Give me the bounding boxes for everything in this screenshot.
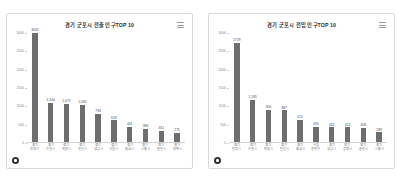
bar[interactable]: 430 (313, 127, 319, 143)
bar[interactable]: 408 (361, 128, 367, 143)
chart-title: 경기 군포시 전입 인구TOP 10 (209, 21, 394, 28)
bar-item[interactable]: 289 (371, 33, 387, 143)
bar-value-label: 1,104 (47, 98, 55, 102)
bar[interactable]: 1,035 (80, 105, 86, 143)
bar[interactable]: 424 (345, 127, 351, 143)
badge-inner-dot (14, 159, 16, 161)
bar-item[interactable]: 1,035 (74, 33, 90, 143)
y-axis: 050010001500200025003000 (209, 33, 229, 143)
x-axis-tick-label: 경기의왕시 (59, 144, 75, 152)
bar[interactable]: 1,104 (48, 103, 54, 143)
y-axis-tick-label: 3000 (218, 31, 226, 35)
x-axis-tick-label-line: 시흥시 (138, 148, 154, 152)
bar[interactable]: 441 (127, 127, 133, 143)
y-axis-tick-label: 1000 (16, 104, 24, 108)
bar-item[interactable]: 794 (90, 33, 106, 143)
bar-item[interactable]: 430 (308, 33, 324, 143)
y-axis-tick-label: 3000 (16, 31, 24, 35)
chart-panel: 경기 군포시 전출 인구TOP 100500100015002000250030… (6, 13, 193, 169)
bar[interactable]: 887 (282, 110, 288, 143)
bar-value-label: 386 (143, 124, 149, 128)
bar-item[interactable]: 275 (169, 33, 185, 143)
bar[interactable]: 386 (143, 129, 149, 143)
x-axis-tick-label-line: 수원시 (245, 148, 261, 152)
bar-item[interactable]: 441 (122, 33, 138, 143)
x-axis-tick-label: 경기의왕시 (261, 144, 277, 152)
y-axis: 050010001500200025003000 (7, 33, 27, 143)
x-axis-tick-label: 경기수원시 (245, 144, 261, 152)
x-axis-tick-label-line: 시흥시 (371, 148, 387, 152)
bar-item[interactable]: 424 (340, 33, 356, 143)
bar-value-label: 1,185 (249, 95, 257, 99)
bar[interactable]: 1,071 (64, 104, 70, 143)
bar[interactable]: 621 (297, 120, 303, 143)
bar-item[interactable]: 341 (153, 33, 169, 143)
bar-series: 30021,1041,0711,035794618441386341275 (27, 33, 185, 143)
x-axis-tick-label-line: 수원시 (43, 148, 59, 152)
x-axis-tick-label: 경기안산시 (74, 144, 90, 152)
y-axis-tick-label: 2500 (218, 49, 226, 53)
bar-value-label: 275 (174, 128, 180, 132)
x-axis-tick-label-line: 용인시 (153, 148, 169, 152)
x-axis-tick-label: 경기화성시 (292, 144, 308, 152)
bar-value-label: 424 (345, 123, 351, 127)
y-axis-tick-label: 2000 (218, 68, 226, 72)
bar-series: 27291,185900887621430424424408289 (229, 33, 387, 143)
bar-value-label: 3002 (31, 28, 38, 32)
x-axis-tick-label-line: 의왕시 (59, 148, 75, 152)
bar-value-label: 289 (376, 128, 382, 132)
bar[interactable]: 900 (266, 110, 272, 143)
bar[interactable]: 1,185 (250, 100, 256, 143)
x-axis-tick-label: 경기시흥시 (138, 144, 154, 152)
x-axis-tick-label-line: 안양시 (27, 148, 43, 152)
y-axis-tick-label: 0 (22, 141, 24, 145)
bar-item[interactable]: 2729 (229, 33, 245, 143)
x-axis-tick-label-line: 안양시 (229, 148, 245, 152)
plot-area: 05001000150020002500300027291,1859008876… (229, 33, 387, 143)
x-axis-tick-label: 경기안양시 (27, 144, 43, 152)
bar-item[interactable]: 3002 (27, 33, 43, 143)
x-axis-tick-label-line: 성남시 (90, 148, 106, 152)
bar-item[interactable]: 887 (276, 33, 292, 143)
x-axis-tick-label: 서울관악구 (308, 144, 324, 152)
bar-item[interactable]: 1,104 (43, 33, 59, 143)
y-axis-tick-label: 2000 (16, 68, 24, 72)
y-axis-tick-label: 500 (18, 123, 24, 127)
circle-dot-icon[interactable] (214, 157, 221, 164)
bar[interactable]: 618 (111, 120, 117, 143)
bar[interactable]: 3002 (32, 33, 38, 143)
x-axis-tick-label-line: 안산시 (74, 148, 90, 152)
x-axis-tick-label-line: 안산시 (276, 148, 292, 152)
bar-value-label: 424 (329, 123, 335, 127)
x-axis-labels: 경기안양시경기수원시경기의왕시경기안산시경기화성시서울관악구경기성남시경기광명시… (229, 144, 387, 162)
x-axis-tick-label-line: 의왕시 (261, 148, 277, 152)
x-axis-tick-label: 경기평택시 (169, 144, 185, 152)
bar[interactable]: 2729 (234, 43, 240, 143)
x-axis-tick-label: 경기용인시 (355, 144, 371, 152)
bar-item[interactable]: 424 (324, 33, 340, 143)
bar[interactable]: 424 (329, 127, 335, 143)
chart-title: 경기 군포시 전출 인구TOP 10 (7, 21, 192, 28)
hamburger-menu-icon[interactable] (177, 22, 184, 28)
circle-dot-icon[interactable] (12, 157, 19, 164)
bar-value-label: 887 (282, 106, 288, 110)
bar-item[interactable]: 900 (261, 33, 277, 143)
x-axis-tick-label: 경기서울시 (106, 144, 122, 152)
bar-item[interactable]: 621 (292, 33, 308, 143)
x-axis-tick-label: 경기용인시 (153, 144, 169, 152)
chart-panel: 경기 군포시 전입 인구TOP 100500100015002000250030… (208, 13, 395, 169)
bar-value-label: 621 (297, 115, 303, 119)
y-axis-tick-label: 1000 (218, 104, 226, 108)
bar-item[interactable]: 408 (355, 33, 371, 143)
x-axis-tick-label: 경기수원시 (43, 144, 59, 152)
bar-item[interactable]: 386 (138, 33, 154, 143)
bar-item[interactable]: 618 (106, 33, 122, 143)
bar[interactable]: 794 (95, 114, 101, 143)
x-axis-tick-label-line: 광명시 (340, 148, 356, 152)
y-axis-tick-label: 1500 (16, 86, 24, 90)
x-axis-tick-label-line: 관악구 (308, 148, 324, 152)
bar-item[interactable]: 1,185 (245, 33, 261, 143)
bar-item[interactable]: 1,071 (59, 33, 75, 143)
hamburger-menu-icon[interactable] (379, 22, 386, 28)
bar-value-label: 341 (159, 126, 165, 130)
